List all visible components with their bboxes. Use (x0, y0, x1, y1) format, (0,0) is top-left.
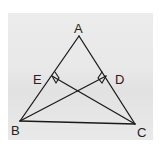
side-ac (79, 36, 135, 124)
vertex-label-b: B (11, 123, 20, 138)
vertex-label-a: A (74, 21, 83, 36)
vertex-label-d: D (115, 72, 124, 87)
vertex-label-e: E (33, 72, 42, 87)
vertex-label-c: C (137, 125, 146, 140)
side-ab (20, 36, 79, 121)
triangle-diagram: A E D B C (0, 0, 159, 145)
side-bc (20, 121, 135, 124)
